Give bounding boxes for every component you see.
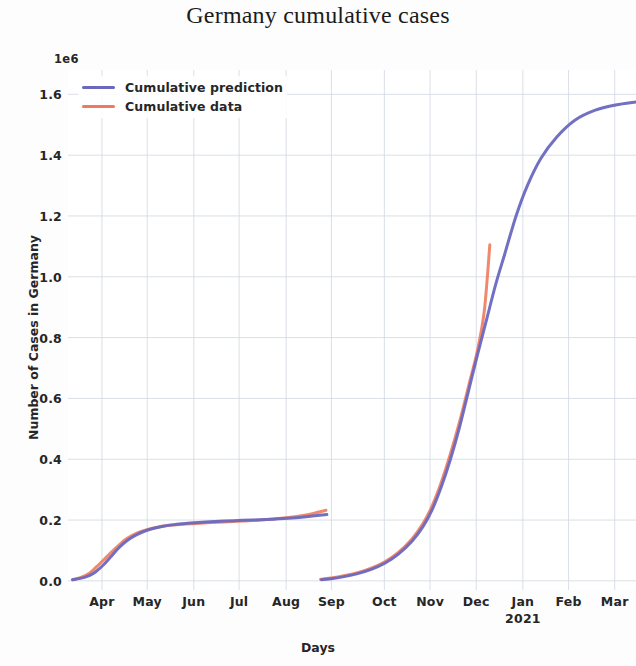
x-tick-label-text: Jan bbox=[512, 594, 535, 609]
x-tick-label-text: Mar bbox=[601, 594, 629, 609]
x-tick-label: Oct bbox=[372, 594, 397, 609]
legend-item[interactable]: Cumulative data bbox=[82, 97, 283, 116]
y-tick-label: 0.2 bbox=[4, 513, 62, 528]
x-axis-tick-labels: AprMayJunJulAugSepOctNovDecJan2021FebMar bbox=[68, 594, 636, 638]
x-tick-label: Aug bbox=[272, 594, 300, 609]
legend-item[interactable]: Cumulative prediction bbox=[82, 78, 283, 97]
x-tick-label-text: Jun bbox=[182, 594, 205, 609]
x-tick-label: Sep bbox=[318, 594, 345, 609]
x-tick-label: Jun bbox=[182, 594, 205, 609]
x-tick-label: Jul bbox=[230, 594, 248, 609]
x-tick-label: Mar bbox=[601, 594, 629, 609]
plot-area bbox=[68, 70, 636, 590]
x-tick-label: Apr bbox=[89, 594, 114, 609]
plot-svg bbox=[68, 70, 636, 590]
legend-color-swatch bbox=[82, 86, 115, 89]
x-tick-label: Dec bbox=[463, 594, 490, 609]
y-tick-label: 0.0 bbox=[4, 573, 62, 588]
legend-color-swatch bbox=[82, 105, 115, 108]
x-tick-label-text: Aug bbox=[272, 594, 300, 609]
x-axis-label: Days bbox=[0, 640, 636, 655]
x-tick-label-text: Oct bbox=[372, 594, 397, 609]
x-tick-label-text: May bbox=[133, 594, 162, 609]
y-axis-label: Number of Cases in Germany bbox=[26, 208, 41, 468]
page-title: Germany cumulative cases bbox=[0, 2, 636, 29]
x-tick-label-text: Jul bbox=[230, 594, 248, 609]
legend-item-label: Cumulative data bbox=[125, 99, 242, 114]
series-lines bbox=[73, 102, 636, 580]
y-tick-label: 1.4 bbox=[4, 148, 62, 163]
gridlines bbox=[68, 70, 636, 590]
x-tick-year-label: 2021 bbox=[505, 611, 541, 626]
y-tick-label: 1.6 bbox=[4, 87, 62, 102]
x-tick-label: Jan2021 bbox=[505, 594, 541, 626]
x-tick-label-text: Feb bbox=[556, 594, 582, 609]
x-tick-label-text: Nov bbox=[416, 594, 444, 609]
x-tick-label-text: Dec bbox=[463, 594, 490, 609]
legend-item-label: Cumulative prediction bbox=[125, 80, 283, 95]
chart-legend: Cumulative predictionCumulative data bbox=[78, 76, 287, 118]
x-tick-label-text: Sep bbox=[318, 594, 345, 609]
y-axis-offset-label: 1e6 bbox=[54, 52, 79, 66]
x-tick-label: Feb bbox=[556, 594, 582, 609]
x-tick-label-text: Apr bbox=[89, 594, 114, 609]
x-tick-label: Nov bbox=[416, 594, 444, 609]
series-line-wave-1-data bbox=[73, 510, 326, 579]
chart-figure: Germany cumulative cases 1e6 0.00.20.40.… bbox=[0, 0, 636, 666]
x-tick-label: May bbox=[133, 594, 162, 609]
